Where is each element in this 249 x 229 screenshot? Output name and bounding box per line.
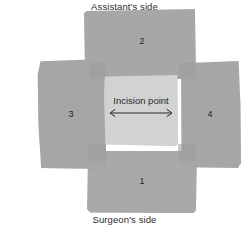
drape-overlap-bottom-left [88, 144, 106, 161]
draping-diagram: Assistant's side Incision point 2 1 3 4 … [0, 0, 249, 229]
drape-number-2: 2 [135, 36, 149, 46]
drape-overlap-bottom-right [178, 144, 196, 161]
drape-overlap-top-right [179, 63, 196, 79]
drape-number-3: 3 [64, 109, 78, 119]
drape-number-1: 1 [135, 176, 149, 186]
surgeon-side-label: Surgeon's side [0, 214, 249, 225]
double-headed-arrow-icon [106, 107, 176, 119]
assistant-side-label: Assistant's side [0, 1, 249, 12]
drape-number-4: 4 [203, 109, 217, 119]
drape-overlap-top-left [89, 62, 106, 79]
incision-point-label: Incision point [104, 95, 178, 106]
